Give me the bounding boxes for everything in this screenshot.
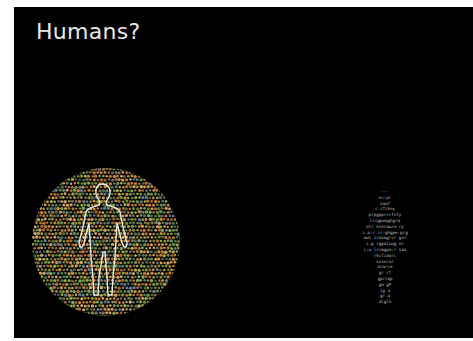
text-line: sauf [380, 201, 391, 206]
text-line: gr rt [379, 270, 392, 275]
text-line: prpgpprrcfvty [369, 212, 402, 217]
slide: Humans? ---nc:prsaufr.cfcknyprpgpprrcfvt… [14, 7, 473, 338]
text-line: ga gP [379, 282, 392, 287]
text-line: gprcqp [377, 276, 393, 281]
text-line: i.g rgpaluug nr [366, 241, 404, 246]
text-line: aus irasagrcr gor [364, 235, 407, 240]
text-line: c;u lrcmgpa:r sas [364, 247, 407, 252]
text-line: rhctidarc [374, 253, 397, 258]
text-line: ircgpwaghgra [370, 218, 401, 223]
text-line: --- [381, 189, 389, 194]
text-line: ararce [377, 264, 393, 269]
text-line: gr a [380, 293, 391, 298]
color-dot-plate [31, 167, 181, 317]
slide-title: Humans? [36, 19, 141, 44]
text-human-silhouette: ---nc:prsaufr.cfcknyprpgpprrcfvtyircgpwa… [350, 185, 420, 310]
text-line: ig a [380, 288, 391, 293]
text-line: nc:pr [379, 195, 392, 200]
text-line: r.cfckny [375, 206, 396, 211]
text-line: i.a:r ir:ghgpe grg [362, 230, 408, 235]
text-line: sxsnrur [376, 259, 394, 264]
text-line: dlgln [379, 299, 392, 304]
text-line: ntr ksnrawre ry [366, 224, 404, 229]
